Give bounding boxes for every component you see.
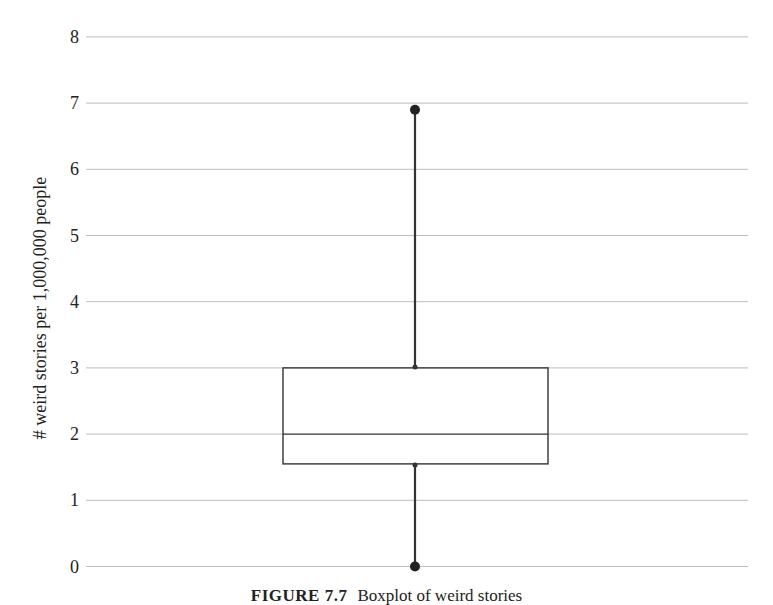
figure-label: FIGURE 7.7: [251, 586, 348, 605]
gridlines: [86, 37, 748, 567]
y-axis-label: # weird stories per 1,000,000 people: [30, 177, 50, 439]
y-tick-label: 3: [70, 358, 79, 378]
y-tick-label: 8: [70, 27, 79, 47]
upper-whisker-join: [413, 364, 418, 369]
y-tick-label: 7: [70, 93, 79, 113]
y-axis-ticks: 012345678: [70, 27, 79, 577]
y-tick-label: 5: [70, 226, 79, 246]
boxplot-chart: 012345678 # weird stories per 1,000,000 …: [0, 0, 773, 605]
figure-caption-text: Boxplot of weird stories: [357, 586, 522, 605]
iqr-box: [283, 368, 548, 464]
y-tick-label: 4: [70, 292, 79, 312]
max-point: [410, 105, 420, 115]
figure-caption: FIGURE 7.7Boxplot of weird stories: [0, 586, 773, 605]
y-tick-label: 1: [70, 490, 79, 510]
y-tick-label: 2: [70, 424, 79, 444]
y-tick-label: 6: [70, 159, 79, 179]
y-tick-label: 0: [70, 557, 79, 577]
min-point: [410, 562, 420, 572]
lower-whisker-join: [413, 462, 418, 467]
boxplot-series: [283, 105, 548, 572]
